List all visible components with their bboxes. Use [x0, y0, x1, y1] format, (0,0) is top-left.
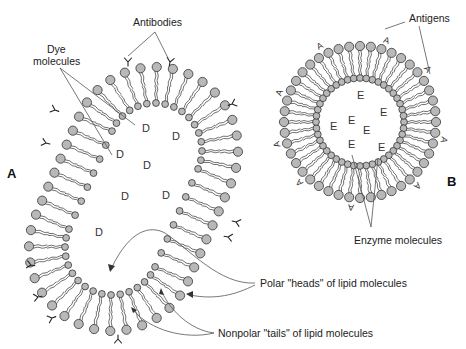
dye-molecules-group: DDDDDDD: [95, 122, 180, 238]
lipid-head-outer: [106, 326, 115, 335]
enzyme-molecule: E: [380, 106, 387, 118]
liposome-a: [24, 57, 242, 343]
lipid-head-outer: [30, 274, 39, 283]
lipid-head-outer: [202, 235, 211, 244]
dye-molecule: D: [121, 190, 129, 202]
lipid-head-outer: [138, 321, 147, 330]
lipid-head-outer: [396, 181, 405, 190]
lipid-head-outer: [387, 187, 396, 196]
lipid-head-outer: [291, 158, 300, 167]
lipid-head-inner: [78, 198, 85, 205]
lipid-head-outer: [226, 179, 235, 188]
lipid-head-inner: [158, 249, 165, 256]
lipid-head-outer: [198, 77, 207, 86]
lipid-head-inner: [108, 292, 115, 299]
antibody-marker: [47, 313, 57, 322]
antigens-leader-1: [385, 22, 405, 29]
lipid-head-outer: [428, 139, 437, 148]
lipid-head-inner: [350, 75, 357, 82]
lipid-head-outer: [282, 96, 291, 105]
lipid-head-inner: [66, 226, 73, 233]
antigen-marker: A: [271, 140, 282, 148]
lipid-head-inner: [357, 163, 364, 170]
lipid-head-outer: [232, 131, 241, 140]
lipid-head-inner: [313, 125, 320, 132]
lipid-head-inner: [344, 76, 351, 83]
antigen-marker: A: [273, 88, 284, 97]
lipid-head-inner: [195, 165, 202, 172]
lipid-head-inner: [82, 283, 89, 290]
antibody-marker: [231, 218, 241, 227]
lipid-head-inner: [197, 157, 204, 164]
polar-heads-arrow-2: [186, 291, 193, 298]
lipid-head-outer: [24, 242, 33, 251]
antibodies-leader-2: [155, 32, 168, 58]
lipid-head-inner: [90, 288, 97, 295]
antibody-marker: [223, 233, 232, 241]
lipid-head-inner: [363, 75, 370, 82]
polar-heads-leader-2: [190, 285, 255, 297]
lipid-head-outer: [279, 117, 288, 126]
lipid-head-outer: [334, 190, 343, 199]
dye-molecule: D: [116, 148, 124, 160]
lipid-head-outer: [405, 175, 414, 184]
panel-label-a: A: [7, 166, 17, 181]
lipid-head-outer: [425, 149, 434, 158]
lipid-head-inner: [98, 290, 105, 297]
lipid-head-outer: [396, 53, 405, 62]
lipid-head-inner: [350, 162, 357, 169]
antibody-marker: [115, 335, 122, 343]
lipid-head-outer: [314, 53, 323, 62]
lipid-head-outer: [431, 128, 440, 137]
lipid-head-inner: [400, 125, 407, 132]
lipid-head-inner: [126, 288, 133, 295]
polar-heads-label: Polar "heads" of lipid molecules: [260, 277, 407, 289]
lipid-head-inner: [126, 107, 133, 114]
antibody-marker: [50, 105, 60, 114]
dye-molecule: D: [143, 159, 151, 171]
lipid-head-inner: [147, 272, 154, 279]
lipid-head-inner: [143, 100, 150, 107]
lipid-head-outer: [419, 76, 428, 85]
lipid-head-inner: [113, 120, 120, 127]
lipid-head-outer: [355, 41, 364, 50]
lipid-head-outer: [413, 167, 422, 176]
lipid-head-outer: [210, 88, 219, 97]
dye-molecule: D: [142, 122, 150, 134]
lipid-head-outer: [345, 42, 354, 51]
lipid-head-outer: [68, 126, 77, 135]
lipid-head-outer: [425, 86, 434, 95]
lipid-head-outer: [306, 175, 315, 184]
lipid-head-inner: [176, 207, 183, 214]
lipid-head-outer: [298, 68, 307, 77]
lipid-head-outer: [26, 226, 35, 235]
lipid-head-inner: [65, 262, 72, 269]
liposome-diagram: AAAAAAAAA DDDDDDD EEEEEEE A B Antibodies…: [0, 0, 466, 349]
antibodies-leader-1: [128, 32, 155, 56]
lipid-head-outer: [405, 60, 414, 69]
lipid-head-outer: [280, 128, 289, 137]
lipid-head-inner: [62, 244, 69, 251]
lipid-head-outer: [184, 69, 193, 78]
lipid-head-inner: [153, 100, 160, 107]
lipid-head-outer: [286, 149, 295, 158]
antigen-marker: A: [347, 202, 354, 213]
dye-molecule: D: [95, 226, 103, 238]
lipid-head-inner: [363, 162, 370, 169]
dye-molecule: D: [172, 130, 180, 142]
lipid-head-outer: [90, 324, 99, 333]
lipid-head-outer: [82, 98, 91, 107]
lipid-head-inner: [134, 284, 141, 291]
lipid-head-outer: [74, 112, 83, 121]
lipid-head-outer: [291, 76, 300, 85]
lipid-head-inner: [182, 193, 189, 200]
lipid-head-outer: [183, 277, 192, 286]
lipid-head-outer: [324, 187, 333, 196]
lipid-head-outer: [220, 193, 229, 202]
lipid-head-outer: [122, 325, 131, 334]
nonpolar-tails-arrow-1: [159, 288, 164, 295]
lipid-head-outer: [74, 319, 83, 328]
lipid-head-outer: [377, 44, 386, 53]
lipid-head-outer: [298, 167, 307, 176]
lipid-head-outer: [233, 147, 242, 156]
